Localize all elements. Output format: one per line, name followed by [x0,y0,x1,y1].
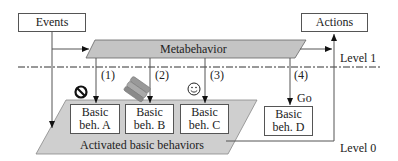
events-label: Events [36,16,69,29]
actions-label: Actions [316,16,353,29]
basic-behavior-c: Basic beh. C [180,104,229,134]
arrow-2-label: (2) [155,69,169,82]
go-label: Go [297,92,312,105]
arrow-1-label: (1) [101,69,115,82]
level-1-label: Level 1 [340,52,376,65]
activated-behaviors-label: Activated basic behaviors [80,139,204,152]
actions-box: Actions [301,13,368,32]
smiley-icon [188,83,200,95]
arrow-4-label: (4) [294,69,308,82]
no-entry-icon [76,87,87,98]
basic-behavior-b: Basic beh. B [125,104,174,134]
basic-behavior-d-line2: beh. D [273,121,305,134]
events-box: Events [18,13,86,32]
basic-behavior-a: Basic beh. A [70,104,120,134]
metabehavior-diagram: Events Actions Metabehavior Level 1 Leve… [0,0,398,161]
basic-behavior-c-line2: beh. C [189,119,220,132]
basic-behavior-d: Basic beh. D [264,106,313,136]
basic-behavior-a-line2: beh. A [79,119,110,132]
basic-behavior-b-line2: beh. B [134,119,165,132]
batteries-icon [123,76,151,103]
metabehavior-label: Metabehavior [160,43,227,56]
arrow-3-label: (3) [210,69,224,82]
level-0-label: Level 0 [340,142,376,155]
